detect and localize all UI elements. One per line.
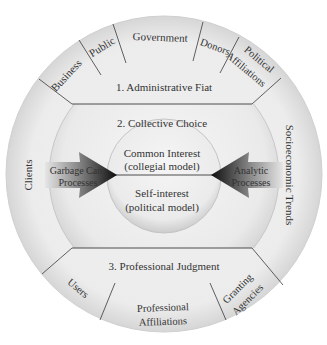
label-government: Government <box>132 30 187 44</box>
label-collegial-model: (collegial model) <box>124 160 200 173</box>
label-self-interest: Self-interest <box>135 187 189 199</box>
label-administrative-fiat: 1. Administrative Fiat <box>116 81 212 93</box>
label-garbage-can: Garbage Can <box>50 165 102 176</box>
label-collective-choice: 2. Collective Choice <box>117 117 207 129</box>
label-clients: Clients <box>22 159 34 190</box>
label-affiliations-bottom: Affiliations <box>139 315 188 328</box>
label-political-model: (political model) <box>125 201 199 214</box>
label-professional: Professional <box>137 301 189 314</box>
label-socioeconomic-trends: Socioeconomic Trends <box>284 125 296 226</box>
label-professional-judgment: 3. Professional Judgment <box>109 260 220 272</box>
label-analytic: Analytic <box>234 165 269 176</box>
label-garbage-processes: Processes <box>59 177 98 188</box>
label-analytic-processes: Processes <box>232 177 271 188</box>
inner-circle <box>107 119 221 233</box>
stakeholder-decision-diagram: Business Public Government Donors Politi… <box>0 0 327 345</box>
label-common-interest: Common Interest <box>124 147 201 159</box>
